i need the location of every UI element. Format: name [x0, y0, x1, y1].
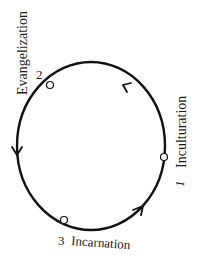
node-1-number: 1 — [172, 181, 187, 188]
node-2-label: Evangelization — [15, 11, 30, 95]
cycle-ring — [17, 62, 165, 230]
node-1-marker — [161, 154, 168, 161]
cycle-diagram: 2 Evangelization Inculturation 1 3 Incar… — [0, 0, 199, 259]
arrow-icon-top — [123, 83, 131, 92]
node-1-label: Inculturation — [174, 96, 189, 168]
node-2-number: 2 — [36, 67, 43, 82]
node-3-number: 3 — [58, 233, 65, 248]
node-3-marker — [61, 217, 68, 224]
node-2-marker — [47, 82, 54, 89]
node-3-label: Incarnation — [71, 233, 132, 252]
